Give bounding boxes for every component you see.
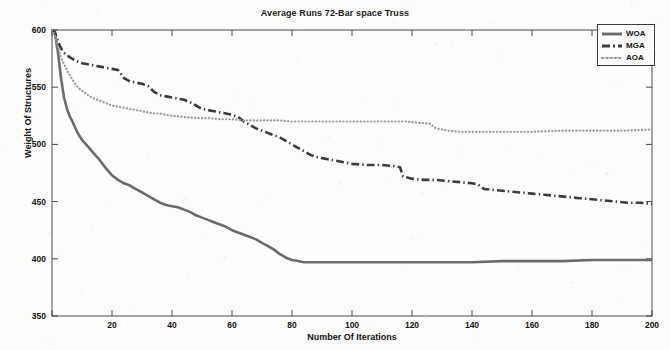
legend-label-woa: WOA (626, 29, 646, 39)
legend-label-mga: MGA (626, 41, 645, 51)
scan-artifact (465, 29, 468, 32)
scan-artifact (421, 192, 424, 195)
scan-artifact (48, 232, 51, 235)
scan-artifact (401, 264, 403, 266)
scan-artifact (407, 0, 409, 2)
y-tick-label: 350 (18, 311, 46, 321)
x-tick-label: 80 (278, 320, 306, 330)
legend-swatch-woa (601, 29, 623, 39)
scan-artifact (653, 48, 655, 50)
x-tick-label: 100 (338, 320, 366, 330)
scan-artifact (409, 237, 412, 240)
series-line-aoa (52, 30, 652, 132)
scan-artifact (1, 145, 2, 146)
series-line-mga (52, 30, 652, 204)
x-tick-label: 40 (158, 320, 186, 330)
chart-legend: WOA MGA AOA (597, 24, 655, 66)
legend-item-mga: MGA (601, 40, 651, 52)
scan-artifact (517, 268, 520, 271)
legend-item-aoa: AOA (601, 52, 651, 64)
scan-artifact (296, 60, 299, 63)
x-tick-label: 120 (398, 320, 426, 330)
y-tick-label: 500 (18, 139, 46, 149)
x-tick-label: 180 (578, 320, 606, 330)
scan-artifact (206, 239, 207, 240)
scan-artifact (135, 307, 136, 308)
scan-artifact (568, 175, 569, 176)
x-tick-label: 200 (638, 320, 666, 330)
legend-swatch-mga (601, 41, 623, 51)
plot-canvas (0, 0, 670, 350)
scan-artifact (253, 103, 256, 106)
x-tick-label: 140 (458, 320, 486, 330)
scan-artifact (183, 198, 185, 200)
scan-artifact (506, 149, 508, 151)
scan-artifact (424, 316, 427, 319)
series-line-woa (52, 30, 652, 262)
legend-label-aoa: AOA (626, 53, 644, 63)
plot-frame (52, 30, 652, 316)
scan-artifact (450, 41, 453, 44)
scan-artifact (80, 292, 83, 295)
scan-artifact (187, 273, 190, 276)
scan-artifact (367, 321, 369, 323)
scan-artifact (327, 136, 330, 139)
scan-artifact (379, 143, 381, 145)
legend-swatch-aoa (601, 53, 623, 63)
y-tick-label: 550 (18, 82, 46, 92)
scan-artifact (90, 228, 93, 231)
y-tick-label: 400 (18, 254, 46, 264)
scan-artifact (49, 343, 51, 345)
scan-artifact (365, 98, 366, 99)
x-tick-label: 60 (218, 320, 246, 330)
scan-artifact (476, 335, 478, 337)
y-tick-label: 450 (18, 197, 46, 207)
scan-artifact (506, 199, 507, 200)
x-tick-label: 20 (98, 320, 126, 330)
scan-artifact (168, 101, 171, 104)
chart-figure: Average Runs 72-Bar space Truss Weight O… (0, 0, 670, 350)
scan-artifact (591, 164, 593, 166)
y-tick-label: 600 (18, 25, 46, 35)
scan-artifact (49, 201, 52, 204)
x-tick-label: 160 (518, 320, 546, 330)
scan-artifact (444, 182, 447, 185)
scan-artifact (605, 172, 608, 175)
scan-artifact (57, 250, 60, 253)
legend-item-woa: WOA (601, 28, 651, 40)
